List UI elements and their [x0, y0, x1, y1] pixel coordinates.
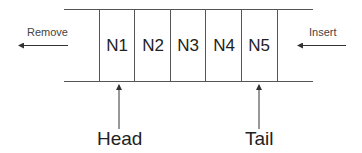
- queue-node-n2: N2: [135, 36, 171, 56]
- insert-label: Insert: [309, 26, 337, 38]
- queue-node-n5: N5: [241, 36, 277, 56]
- queue-node-n4: N4: [206, 36, 242, 56]
- remove-label: Remove: [27, 26, 68, 38]
- queue-node-n1: N1: [99, 36, 135, 56]
- queue-diagram: [0, 0, 362, 153]
- queue-node-n3: N3: [170, 36, 206, 56]
- head-label: Head: [97, 128, 142, 150]
- tail-label: Tail: [245, 128, 274, 150]
